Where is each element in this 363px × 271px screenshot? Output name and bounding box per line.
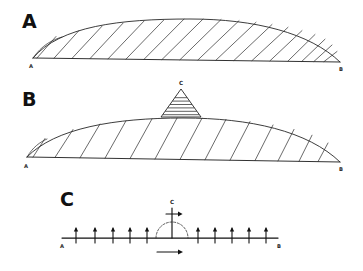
panel-c-label: C: [60, 188, 74, 210]
panel-a: A: [22, 10, 343, 72]
panel-c-mast: C: [166, 199, 183, 238]
panel-b: B: [22, 80, 343, 172]
panel-b-peak-triangle: C: [161, 80, 201, 117]
panel-b-label: B: [22, 88, 36, 110]
panel-b-endpoint-right-label: B: [339, 166, 343, 172]
panel-c-horizontal-vector: [157, 250, 183, 255]
panel-b-upper-arc: [27, 118, 340, 162]
panel-a-endpoint-right-label: B: [339, 66, 343, 72]
vector-right-1: [196, 227, 200, 243]
panel-b-apex-label: C: [179, 80, 183, 86]
panel-c-left-vectors: [74, 227, 149, 243]
vector-right-5: [264, 227, 268, 243]
vector-left-1: [74, 227, 78, 243]
vector-left-3: [111, 227, 115, 243]
panel-a-baseline: [33, 58, 340, 62]
panel-c: C C: [60, 188, 281, 254]
panel-a-hatching: [37, 19, 337, 62]
panel-c-right-vectors: [196, 227, 268, 243]
vector-right-4: [247, 227, 251, 243]
panel-b-endpoint-left-label: A: [24, 163, 28, 169]
panel-c-mast-label: C: [170, 199, 174, 205]
panel-b-hatching: [33, 118, 328, 162]
panel-c-endpoint-left-label: A: [60, 243, 64, 249]
vector-left-2: [93, 227, 97, 243]
figure-canvas: A: [0, 0, 363, 271]
panel-a-endpoint-left-label: A: [29, 63, 33, 69]
panel-b-baseline: [27, 157, 340, 162]
vector-left-5: [145, 227, 149, 243]
vector-left-4: [128, 227, 132, 243]
technical-figure: A: [0, 0, 363, 271]
panel-a-label: A: [22, 10, 37, 32]
panel-a-left-tip-arc: [33, 37, 62, 58]
panel-c-endpoint-right-label: B: [277, 243, 281, 249]
vector-right-2: [213, 227, 217, 243]
vector-right-3: [230, 227, 234, 243]
panel-c-mast-arrowhead: [178, 212, 183, 217]
panel-b-triangle-outline: [161, 89, 201, 117]
